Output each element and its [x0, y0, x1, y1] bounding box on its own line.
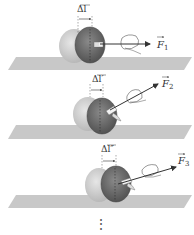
force-label-2: F2	[161, 78, 173, 91]
delta-l-label-1: Δl	[77, 4, 86, 14]
force-label-3: F3	[177, 155, 189, 168]
hand-icon	[121, 35, 139, 49]
force-label-1: F1	[156, 39, 168, 52]
force-arrow-2	[110, 84, 158, 110]
panel-1: Δl F1	[8, 4, 192, 70]
panel-2: Δl′ F2	[8, 74, 192, 139]
table-surface	[8, 57, 192, 70]
panel-3: Δl″ F3	[8, 144, 192, 208]
delta-l-label-2: Δl′	[92, 74, 103, 84]
vertical-ellipsis: ⋮	[94, 216, 108, 232]
delta-l-label-3: Δl″	[101, 144, 114, 154]
apple-force-diagram: Δl F1 Δl′ F2	[0, 0, 194, 235]
